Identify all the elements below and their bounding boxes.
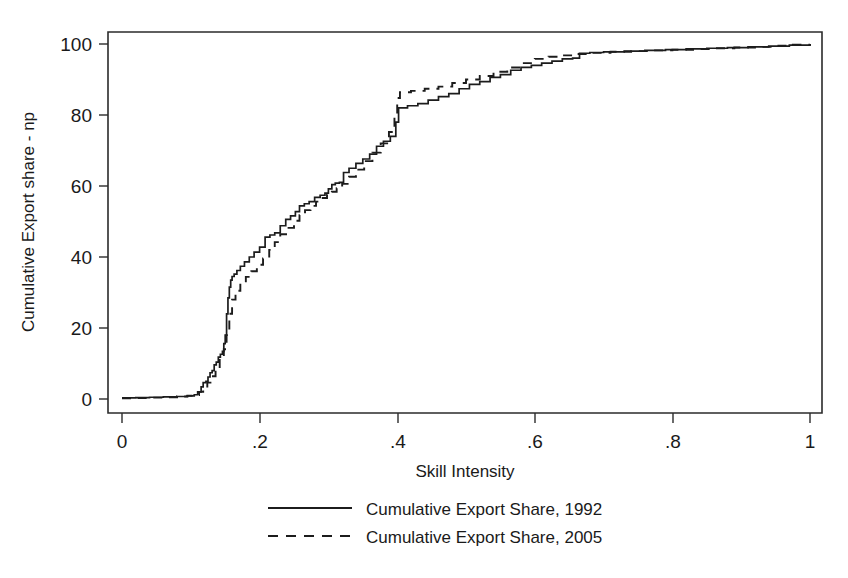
y-axis-title: Cumulative Export share - np [19, 112, 38, 332]
chart-figure: 100 80 60 40 20 0 0 .2 .4 .6 .8 1 Skill … [0, 0, 848, 578]
legend-label-1992: Cumulative Export Share, 1992 [366, 500, 602, 519]
x-tick-label-0: 0 [117, 431, 128, 452]
y-tick-label-0: 0 [81, 389, 92, 410]
y-tick-label-60: 60 [71, 176, 92, 197]
y-tick-label-40: 40 [71, 247, 92, 268]
y-tick-label-100: 100 [60, 34, 92, 55]
x-tick-label-02: .2 [252, 431, 268, 452]
x-tick-label-06: .6 [527, 431, 543, 452]
figure-background [0, 0, 848, 578]
x-tick-label-08: .8 [665, 431, 681, 452]
legend-label-2005: Cumulative Export Share, 2005 [366, 528, 602, 547]
x-tick-label-1: 1 [805, 431, 816, 452]
chart-svg: 100 80 60 40 20 0 0 .2 .4 .6 .8 1 Skill … [0, 0, 848, 578]
x-axis-title: Skill Intensity [415, 462, 515, 481]
y-tick-label-80: 80 [71, 105, 92, 126]
x-tick-label-04: .4 [390, 431, 406, 452]
y-tick-label-20: 20 [71, 318, 92, 339]
